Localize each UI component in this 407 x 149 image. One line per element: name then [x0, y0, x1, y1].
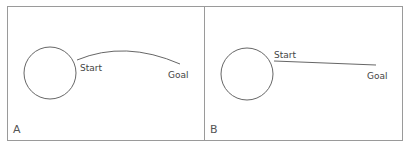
panel-b-start-label: Start — [274, 50, 296, 60]
panel-a-letter: A — [13, 123, 21, 136]
panel-b-letter: B — [210, 123, 218, 136]
panel-a-goal-label: Goal — [168, 70, 189, 80]
panel-a-start-label: Start — [80, 63, 102, 73]
panel-b-straight-path — [274, 61, 376, 65]
panel-a-circle — [24, 47, 76, 99]
panel-b: Start Goal B — [205, 7, 403, 141]
panel-a: Start Goal A — [8, 7, 205, 141]
panel-b-goal-label: Goal — [367, 71, 388, 81]
diagram-canvas: Start Goal A Start Goal B — [0, 0, 407, 149]
panel-b-circle — [221, 48, 273, 100]
diagram-figure: Start Goal A Start Goal B — [0, 0, 407, 149]
